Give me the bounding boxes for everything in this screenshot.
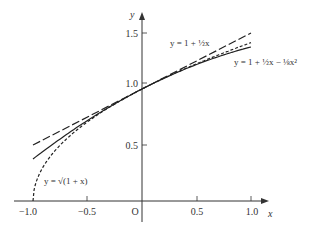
y-axis-label: y — [129, 9, 135, 20]
y-axis-arrow-icon — [139, 12, 145, 20]
y-tick-label: 0.5 — [126, 140, 139, 151]
x-axis-label: x — [267, 208, 273, 219]
annotation-quadratic: y = 1 + ½x − ⅛x² — [234, 57, 297, 67]
y-tick-label: 1.5 — [126, 28, 139, 39]
annotation-sqrt: y = √(1 + x) — [44, 176, 88, 186]
chart: −1.0 −0.5 0.5 1.0 O x 0.5 1.0 1.5 y y = … — [0, 0, 323, 231]
x-tick-label: 0.5 — [191, 206, 204, 217]
x-tick-label: −1.0 — [19, 206, 37, 217]
x-axis-arrow-icon — [261, 198, 269, 204]
origin-label: O — [131, 206, 138, 217]
y-tick-label: 1.0 — [126, 78, 139, 89]
tick-marks — [87, 33, 251, 201]
x-tick-label: 1.0 — [246, 206, 259, 217]
x-tick-label: −0.5 — [78, 206, 96, 217]
annotation-linear: y = 1 + ½x — [170, 38, 210, 48]
